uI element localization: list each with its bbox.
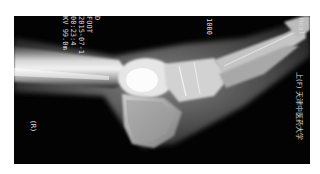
overlay-line-5: KV 99.0m [61,16,68,50]
xray-film: D FOOT 2015-07-1 00:23:4 KV 99.0m 1000 H… [14,16,310,164]
side-marker: (R) [29,121,37,131]
overlay-line-1: D [93,16,100,20]
overlay-line-3: 2015-07-1 [77,16,84,54]
overlay-top-middle: 1000 [205,18,212,35]
overlay-right-top: Heal [297,18,304,35]
overlay-right-edge: 上(F) 天津中医药大学 [295,72,305,140]
overlay-line-4: 00:23:4 [69,16,76,46]
foot-xray-graphic [14,16,310,164]
overlay-line-2: FOOT [85,16,92,33]
